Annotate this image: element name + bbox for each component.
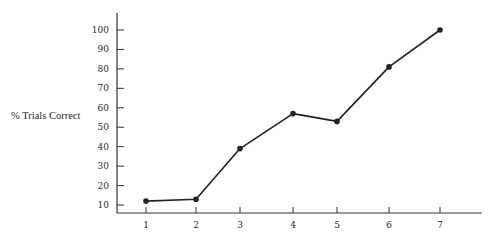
y-tick-label: 100 xyxy=(92,25,109,35)
y-tick-label: 40 xyxy=(98,142,110,152)
line-chart: 102030405060708090100 1234567 % Trials C… xyxy=(0,0,491,243)
x-tick-label: 1 xyxy=(143,220,149,230)
y-tick-label: 90 xyxy=(98,44,110,54)
data-point-marker xyxy=(237,146,243,152)
x-tick-label: 4 xyxy=(290,220,296,230)
y-tick-label: 30 xyxy=(98,161,110,171)
x-tick-label: 5 xyxy=(334,220,340,230)
y-tick-label: 50 xyxy=(98,122,110,132)
y-tick-label: 60 xyxy=(98,103,110,113)
y-axis: 102030405060708090100 xyxy=(92,13,124,213)
data-point-marker xyxy=(386,64,392,70)
y-tick-label: 20 xyxy=(98,181,110,191)
data-point-marker xyxy=(334,119,340,125)
data-series xyxy=(143,27,443,204)
data-point-marker xyxy=(143,198,149,204)
data-point-marker xyxy=(193,196,199,202)
x-axis: 1234567 xyxy=(117,207,482,230)
y-tick-label: 80 xyxy=(98,64,110,74)
x-tick-label: 2 xyxy=(193,220,199,230)
x-tick-label: 6 xyxy=(386,220,392,230)
x-tick-label: 7 xyxy=(437,220,443,230)
y-tick-label: 70 xyxy=(98,83,110,93)
x-tick-label: 3 xyxy=(237,220,243,230)
data-point-marker xyxy=(437,27,443,33)
data-point-marker xyxy=(290,111,296,117)
y-tick-label: 10 xyxy=(98,200,110,210)
y-axis-title: % Trials Correct xyxy=(11,110,80,121)
